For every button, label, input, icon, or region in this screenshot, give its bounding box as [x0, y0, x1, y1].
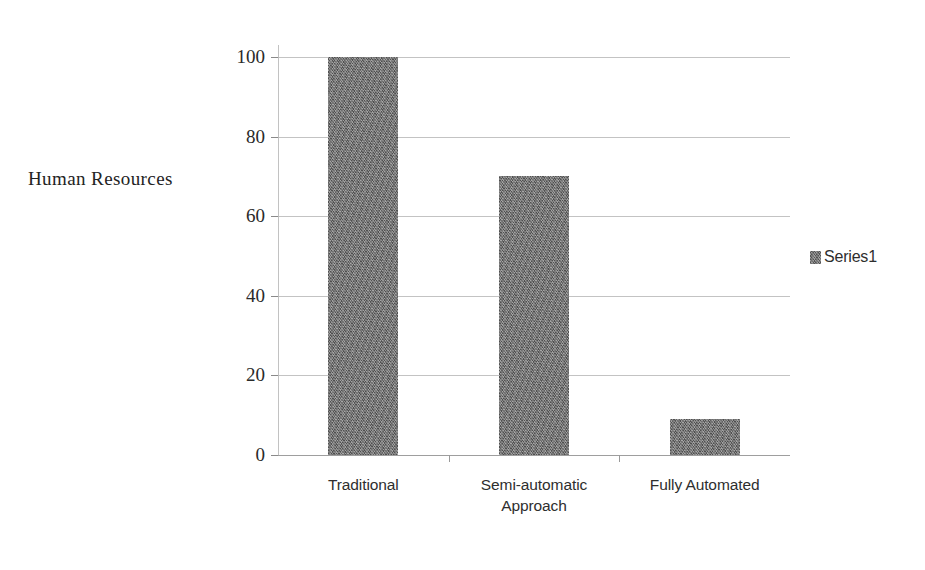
- y-axis-tick-label: 20: [246, 364, 265, 386]
- y-axis-tick-60: [271, 216, 278, 217]
- x-axis-label-line: Approach: [449, 495, 620, 516]
- bar[interactable]: [328, 57, 398, 455]
- bar-chart: Human Resources 020406080100 Traditional…: [0, 0, 925, 570]
- y-axis-tick-0: [271, 455, 278, 456]
- bar[interactable]: [670, 419, 740, 455]
- legend-swatch-icon: [810, 251, 821, 264]
- x-axis-label: Fully Automated: [619, 474, 790, 495]
- y-axis-tick-80: [271, 137, 278, 138]
- bar[interactable]: [499, 176, 569, 455]
- y-axis-tick-20: [271, 375, 278, 376]
- x-axis-label-line: Semi-automatic: [449, 474, 620, 495]
- x-axis-label: Traditional: [278, 474, 449, 495]
- x-axis-label: Semi-automaticApproach: [449, 474, 620, 516]
- plot-area: 020406080100: [278, 57, 790, 455]
- y-axis-tick-label: 100: [237, 46, 266, 68]
- y-axis-tick-label: 0: [256, 444, 266, 466]
- x-axis-label-line: Traditional: [278, 474, 449, 495]
- category-separator: [449, 455, 450, 462]
- gridline-0: [278, 455, 790, 456]
- y-axis-tick-100: [271, 57, 278, 58]
- y-axis-tick-label: 60: [246, 205, 265, 227]
- y-axis-tick-label: 40: [246, 285, 265, 307]
- y-axis-tick-label: 80: [246, 126, 265, 148]
- y-axis-line: [278, 45, 279, 455]
- y-axis-tick-40: [271, 296, 278, 297]
- category-separator: [619, 455, 620, 462]
- y-axis-title: Human Resources: [28, 168, 238, 190]
- legend-entry-label: Series1: [824, 248, 877, 266]
- chart-legend: Series1: [810, 248, 877, 266]
- x-axis-label-line: Fully Automated: [619, 474, 790, 495]
